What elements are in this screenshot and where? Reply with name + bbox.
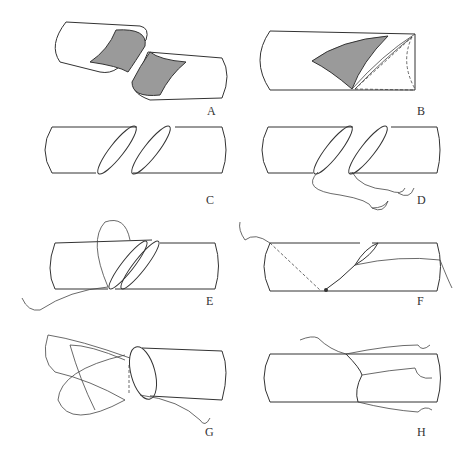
panel-label-d: D	[417, 193, 426, 208]
panel-a-drawing	[55, 22, 227, 100]
panel-label-g: G	[205, 425, 214, 440]
panel-b-drawing	[260, 31, 415, 90]
panel-label-e: E	[206, 294, 213, 309]
panel-label-h: H	[417, 425, 426, 440]
panel-g-drawing	[45, 335, 226, 424]
panel-e-drawing	[22, 220, 219, 310]
panel-label-a: A	[207, 104, 216, 119]
panel-f-drawing	[240, 222, 452, 292]
panel-label-b: B	[417, 104, 425, 119]
panel-label-f: F	[417, 294, 424, 309]
panel-d-drawing	[262, 122, 440, 210]
anastomosis-diagram	[0, 0, 475, 457]
panel-c-drawing	[45, 122, 226, 178]
panel-h-drawing	[264, 337, 441, 412]
panel-label-c: C	[206, 193, 214, 208]
